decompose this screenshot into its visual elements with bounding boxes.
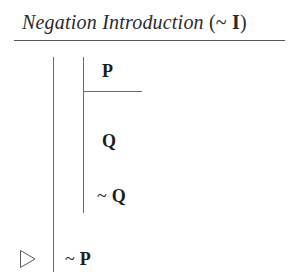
outer-scope-line (53, 57, 54, 272)
inner-subproof-line (83, 57, 84, 213)
rule-abbreviation: (~ I) (209, 11, 247, 33)
formula-text: Q (102, 131, 116, 151)
tilde-symbol: ~ (65, 249, 75, 269)
close-paren: ) (240, 11, 247, 33)
proof-rule-figure: Negation Introduction (~ I) P Q ~Q ~P (0, 0, 295, 277)
proof-line-derived: Q (97, 132, 116, 150)
proof-line-assumption: P (97, 62, 113, 80)
formula-text: P (80, 249, 91, 269)
title-underline (14, 40, 285, 41)
assumption-divider-line (83, 91, 142, 92)
rule-title: Negation Introduction (~ I) (22, 11, 247, 34)
tilde-symbol: ~ (97, 186, 107, 206)
tilde-symbol: ~ (216, 11, 227, 33)
proof-line-contradiction: ~Q (97, 187, 126, 205)
formula-text: Q (112, 186, 126, 206)
conclusion-triangle-icon (18, 249, 38, 269)
proof-line-conclusion: ~P (65, 250, 91, 268)
formula-text: P (102, 61, 113, 81)
rule-letter: I (232, 11, 240, 33)
rule-name: Negation Introduction (22, 11, 204, 33)
open-paren: ( (209, 11, 216, 33)
